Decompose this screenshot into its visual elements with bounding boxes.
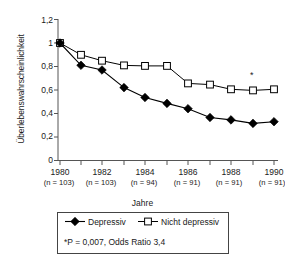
legend-item-depressiv: Depressiv <box>65 216 126 227</box>
open-square-marker-icon <box>138 216 158 227</box>
x-tick-label-1986: 1986 <box>171 168 205 177</box>
x-tick-label-1988: 1988 <box>214 168 248 177</box>
sample-size-1984: (n = 94) <box>123 179 165 187</box>
x-tick-label-1982: 1982 <box>85 168 119 177</box>
sample-size-1990: (n = 91) <box>251 179 285 187</box>
sample-size-1982: (n = 103) <box>80 179 122 187</box>
filled-diamond-marker-icon <box>65 216 85 227</box>
x-tick-label-1980: 1980 <box>43 168 77 177</box>
sample-size-1988: (n = 91) <box>208 179 250 187</box>
legend-item-nicht-depressiv: Nicht depressiv <box>138 216 219 227</box>
series-line-depressiv <box>60 43 274 123</box>
series-markers-depressiv <box>56 39 279 128</box>
legend-label-nicht-depressiv: Nicht depressiv <box>161 217 219 227</box>
legend-label-depressiv: Depressiv <box>88 217 126 227</box>
chart-legend: Depressiv Nicht depressiv *P = 0,007, Od… <box>57 212 229 254</box>
survival-chart: Überlebenswahrscheinlichkeit 1,2 1 0,8 0… <box>0 0 285 258</box>
x-axis-title: Jahre <box>0 198 285 208</box>
x-axis-ticks <box>60 161 274 166</box>
x-tick-label-1984: 1984 <box>128 168 162 177</box>
legend-footnote: *P = 0,007, Odds Ratio 3,4 <box>64 237 165 247</box>
significance-asterisk: * <box>250 71 254 80</box>
sample-size-1980: (n = 103) <box>38 179 80 187</box>
x-tick-label-1990: 1990 <box>257 168 285 177</box>
legend-entries: Depressiv Nicht depressiv <box>58 216 230 232</box>
sample-size-1986: (n = 91) <box>166 179 208 187</box>
